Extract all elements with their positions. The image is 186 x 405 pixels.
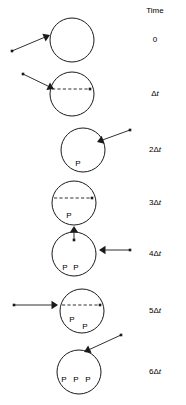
time-label: 2Δt — [125, 145, 185, 154]
time-label: 5Δt — [125, 306, 185, 315]
target-circle — [57, 350, 101, 394]
time-label: Δt — [125, 89, 185, 98]
time-label: 4Δt — [125, 249, 185, 258]
timestep-row — [50, 72, 94, 116]
particle-dot — [73, 239, 76, 242]
arrow-head — [52, 301, 59, 309]
incoming-particle-arrow — [22, 73, 54, 90]
time-label: 6Δt — [125, 367, 185, 376]
captured-particle-label: P — [58, 159, 98, 168]
timestep-row — [50, 18, 94, 62]
time-label: 3Δt — [125, 198, 185, 207]
captured-particle-label: P — [56, 263, 96, 272]
trajectory-end-dot — [89, 88, 92, 91]
trajectory-end-dot — [99, 304, 102, 307]
particle-dot — [22, 73, 25, 76]
captured-particle-label: P — [49, 211, 89, 220]
arrow-head — [99, 246, 106, 254]
target-circle — [50, 18, 94, 62]
particle-dot — [11, 50, 14, 53]
incoming-particle-arrow — [84, 334, 122, 353]
time-column-header: Time — [125, 6, 185, 15]
particle-dot — [13, 304, 16, 307]
captured-particle-label: P — [68, 375, 108, 384]
incoming-particle-arrow — [70, 226, 78, 241]
incoming-particle-arrow — [11, 34, 50, 53]
target-circle — [50, 72, 94, 116]
arrow-shaft — [90, 335, 121, 349]
particle-dot — [120, 334, 123, 337]
arrow-shaft — [103, 130, 130, 140]
incoming-particle-arrow — [13, 301, 58, 309]
arrow-shaft — [23, 74, 48, 86]
time-label: 0 — [125, 35, 185, 44]
trajectory-end-dot — [91, 197, 94, 200]
particle-dot — [129, 129, 132, 132]
arrow-shaft — [12, 38, 44, 51]
incoming-particle-arrow — [97, 129, 131, 144]
diagram-canvas: PPPPPPPPPTime0Δt2Δt3Δt4Δt5Δt6Δt — [0, 0, 186, 405]
timestep-row — [57, 350, 101, 394]
captured-particle-label: P — [65, 322, 105, 331]
